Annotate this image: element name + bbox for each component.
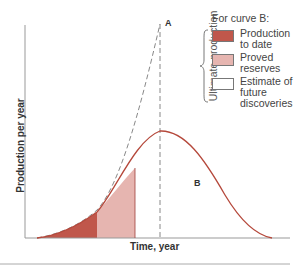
legend-title: For curve B:: [212, 12, 269, 24]
curve-a-label: A: [165, 18, 172, 28]
x-axis-label: Time, year: [130, 241, 179, 252]
legend-item-production: Production to date: [212, 28, 300, 50]
swatch-white: [212, 78, 234, 90]
production-to-date-area: [37, 212, 97, 238]
legend-item-reserves: Proved reserves: [212, 52, 300, 74]
curve-a: [37, 24, 160, 238]
curve-b: [37, 131, 272, 238]
legend-item-future: Estimate of future discoveries: [212, 76, 300, 109]
curve-b-label: B: [194, 178, 201, 188]
swatch-dark: [212, 30, 234, 42]
swatch-light: [212, 54, 234, 66]
y-axis-label: Production per year: [15, 86, 26, 206]
